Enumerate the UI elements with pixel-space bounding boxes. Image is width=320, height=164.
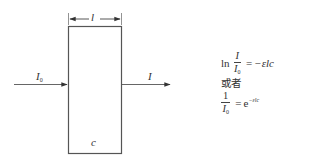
incident-intensity-label: I0 [36, 70, 43, 83]
formula-block: ln I I0 = −εlc 或者 1 I0 = e−εlc [221, 50, 300, 116]
log-form-rhs: −εlc [254, 58, 274, 69]
exponential-exponent: −εlc [248, 97, 259, 103]
fraction-numerator: 1 [221, 91, 230, 104]
exponential-term: e−εlc [243, 97, 259, 109]
intensity-ratio-fraction: I I0 [234, 51, 242, 76]
concentration-label: c [91, 136, 96, 148]
fraction-denominator: I0 [234, 63, 241, 75]
path-length-dimension [69, 13, 122, 25]
or-connector: 或者 [221, 76, 300, 90]
equals-sign: = [246, 58, 252, 69]
log-form-equation: ln I I0 = −εlc [221, 50, 300, 76]
fraction-numerator: I [234, 51, 242, 64]
ln-operator: ln [221, 58, 230, 69]
equals-sign: = [235, 98, 241, 109]
reciprocal-fraction: 1 I0 [221, 91, 230, 116]
exponential-form-equation: 1 I0 = e−εlc [221, 90, 300, 116]
fraction-denominator: I0 [222, 103, 229, 115]
transmitted-intensity-label: I [148, 70, 152, 82]
denominator-subscript: 0 [226, 109, 229, 115]
denominator-subscript: 0 [238, 69, 241, 75]
sample-cell-box [69, 27, 122, 154]
incident-intensity-subscript: 0 [40, 77, 43, 83]
path-length-label: l [91, 11, 94, 23]
